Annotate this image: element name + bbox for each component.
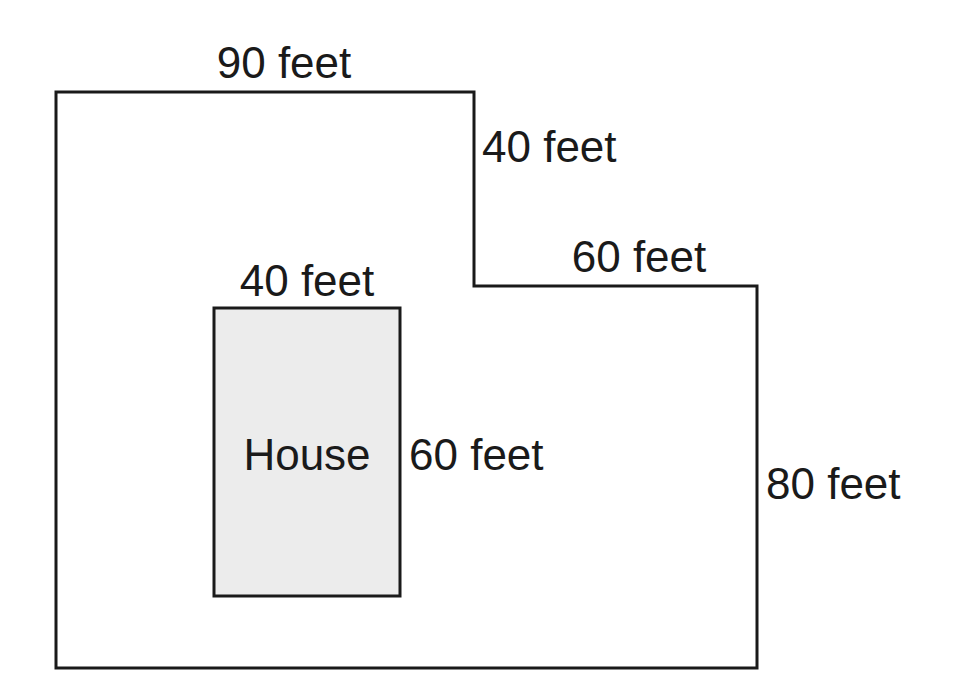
lot-inner-horizontal-edge-label: 60 feet	[572, 232, 707, 281]
lot-right-edge-label: 80 feet	[766, 459, 901, 508]
lot-boundary	[56, 92, 757, 668]
lot-diagram: 90 feet 40 feet 60 feet 80 feet 40 feet …	[0, 0, 972, 691]
lot-inner-vertical-edge-label: 40 feet	[482, 122, 617, 171]
house-height-label: 60 feet	[409, 430, 544, 479]
lot-top-edge-label: 90 feet	[217, 38, 352, 87]
house-width-label: 40 feet	[240, 256, 375, 305]
house-name-label: House	[243, 430, 370, 479]
